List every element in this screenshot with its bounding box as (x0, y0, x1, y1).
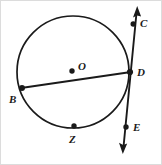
point-dot-Z (71, 123, 76, 128)
point-label-d: D (137, 67, 145, 78)
point-label-o: O (78, 61, 86, 72)
point-label-b: B (9, 94, 16, 105)
point-dot-C (131, 21, 136, 26)
point-label-e: E (133, 122, 140, 133)
image-border (1, 1, 162, 165)
point-label-c: C (140, 18, 147, 29)
point-dot-E (123, 124, 128, 129)
point-dot-B (19, 85, 25, 91)
point-label-z: Z (69, 134, 76, 145)
geometry-canvas (0, 0, 162, 165)
point-dot-D (127, 69, 133, 75)
geometry-figure: O C D E B Z (0, 0, 162, 165)
point-dot-O (69, 68, 74, 73)
